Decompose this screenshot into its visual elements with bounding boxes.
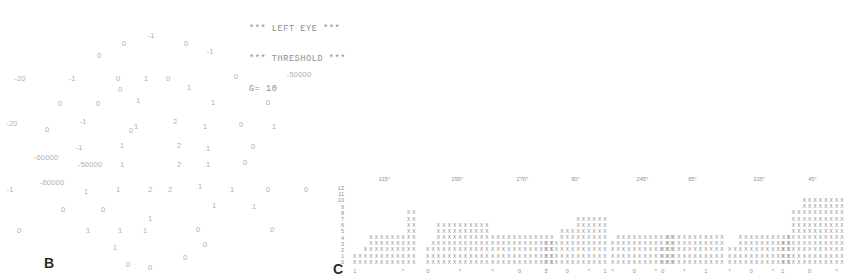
meridian-chart: 115°XXXXXXXXXXXXXXXXXXXXXXXXXXXXXXXXXXXX… — [352, 176, 417, 278]
scatter-value: 1 — [198, 183, 202, 191]
panel-b-label: B — [44, 256, 54, 270]
scatter-value: 1 — [206, 161, 210, 169]
meridian-angle-label: 65° — [660, 176, 725, 183]
scatter-value: 0 — [58, 100, 62, 108]
scatter-value: 0 — [118, 86, 122, 94]
footer-value: 1 — [703, 267, 708, 275]
footer-value: 0 — [425, 267, 430, 275]
meridian-chart: 90°XXXXXXXXXXXXXXXXXXXXXXXXXXXXXXXXXXXXX… — [543, 176, 608, 278]
scatter-value: -1 — [69, 75, 76, 83]
scatter-value: 0 — [203, 241, 207, 249]
scatter-value: 2 — [148, 186, 152, 194]
x-column: XXXXXXXX — [602, 217, 607, 267]
scatter-value: 1 — [120, 161, 124, 169]
scatter-value: 0 — [234, 73, 238, 81]
scatter-value: 0 — [184, 40, 188, 48]
footer-value: 1 — [780, 267, 785, 275]
x-column: XXXXXXXXXXX — [839, 198, 844, 266]
footer-value: * — [770, 267, 775, 275]
meridian-angle-label: 115° — [352, 176, 417, 183]
footer-value: * — [834, 267, 839, 275]
footer-value: 0 — [660, 267, 665, 275]
scatter-value: 0 — [251, 143, 255, 151]
footer-value: 0 — [517, 267, 522, 275]
footer-value: * — [653, 267, 658, 275]
scatter-value: 2 — [168, 186, 172, 194]
scatter-value: 1 — [203, 123, 207, 131]
scatter-value: 1 — [206, 145, 210, 153]
scatter-value: 0 — [266, 186, 270, 194]
scatter-value: 0 — [243, 159, 247, 167]
scatter-value: -1 — [7, 186, 14, 194]
footer-value: * — [727, 267, 732, 275]
footer-value: 0 — [749, 267, 754, 275]
meridian-footer-row: 0* — [425, 266, 490, 276]
scatter-value: 0 — [196, 226, 200, 234]
panel-c-label: C — [333, 262, 343, 276]
panel-c-y-axis: 1211109876543210 — [330, 185, 344, 265]
scatter-value: 0 — [183, 254, 187, 262]
scatter-value: -1 — [80, 118, 87, 126]
footer-value: * — [457, 267, 462, 275]
meridian-column-area: XXXXXXXXXXXXXXXXXXXXXXXXXXXXXXXXXXXXXXXX… — [352, 185, 417, 266]
panel-b-scatter: -1000-1-20-10100-500000100110-200-112101… — [0, 0, 340, 278]
scatter-value: 1 — [187, 84, 191, 92]
footer-value: * — [490, 267, 495, 275]
scatter-value: 0 — [166, 75, 170, 83]
scatter-value: 0 — [239, 121, 243, 129]
scatter-value: -1 — [207, 48, 214, 56]
scatter-value: 0 — [101, 206, 105, 214]
x-column: XXXXXXXXX — [411, 210, 416, 266]
scatter-value: 0 — [96, 100, 100, 108]
scatter-value: 0 — [266, 99, 270, 107]
footer-value: * — [610, 267, 615, 275]
scatter-value: 0 — [270, 226, 274, 234]
footer-value: * — [682, 267, 687, 275]
scatter-value: 0 — [129, 127, 133, 135]
scatter-value: 1 — [143, 227, 147, 235]
scatter-value: 0 — [97, 52, 101, 60]
scatter-value: 1 — [211, 99, 215, 107]
scatter-value: 0 — [304, 186, 308, 194]
scatter-value: 1 — [134, 123, 138, 131]
scatter-value: 2 — [177, 142, 181, 150]
scatter-value: 1 — [116, 186, 120, 194]
scatter-value: 0 — [45, 126, 49, 134]
scatter-value: 1 — [144, 75, 148, 83]
meridian-column-area: XXXXXXXXXXXXXXXXXXXXXXXXXXXXXXXXXXXXXXXX… — [543, 185, 608, 266]
scatter-value: 0 — [148, 264, 152, 272]
scatter-value: 1 — [212, 202, 216, 210]
scatter-value: 0 — [61, 206, 65, 214]
scatter-value: 0 — [126, 261, 130, 269]
scatter-value: -1 — [76, 144, 83, 152]
meridian-footer-row: 10* — [780, 266, 845, 276]
scatter-value: 0 — [17, 227, 21, 235]
meridian-chart: 295°XXXXXXXXXXXXXXXXXXXXXXXXXXXXXXXXXXXX… — [425, 176, 490, 278]
scatter-value: 1 — [120, 142, 124, 150]
scatter-value: 1 — [86, 227, 90, 235]
meridian-angle-label: 45° — [780, 176, 845, 183]
meridian-footer-row: 0*1 — [660, 266, 725, 276]
scatter-value: 2 — [177, 161, 181, 169]
scatter-value: -60000 — [40, 179, 65, 187]
scatter-value: -20 — [14, 75, 25, 83]
scatter-value: -20 — [6, 120, 17, 128]
footer-value: 0 — [632, 267, 637, 275]
meridian-angle-label: 90° — [543, 176, 608, 183]
scatter-value: 1 — [118, 227, 122, 235]
meridian-column-area: XXXXXXXXXXXXXXXXXXXXXXXXXXXXXXXXXXXXXXXX… — [425, 185, 490, 266]
x-column: XXXXX — [719, 235, 724, 266]
meridian-angle-label: 295° — [425, 176, 490, 183]
footer-value: 1 — [352, 267, 357, 275]
footer-value: 1 — [543, 267, 548, 275]
scatter-value: 1 — [252, 203, 256, 211]
scatter-value: -1 — [148, 32, 155, 40]
meridian-column-area: XXXXXXXXXXXXXXXXXXXXXXXXXXXXXXXXXXXXXXXX… — [660, 185, 725, 266]
scatter-value: 1 — [272, 123, 276, 131]
footer-value: 0 — [565, 267, 570, 275]
panel-c-charts: 1211109876543210 115°XXXXXXXXXXXXXXXXXXX… — [330, 176, 694, 278]
meridian-chart: 65°XXXXXXXXXXXXXXXXXXXXXXXXXXXXXXXXXXXXX… — [660, 176, 725, 278]
scatter-value: 2 — [173, 118, 177, 126]
scatter-value: 0 — [116, 75, 120, 83]
x-column: XXXXXXX — [484, 223, 489, 266]
